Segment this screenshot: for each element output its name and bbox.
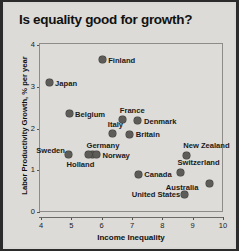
x-tick-label: 10 <box>216 222 230 230</box>
chart-inner-panel: Is equality good for growth? Labor Produ… <box>5 4 234 247</box>
data-point <box>66 110 73 117</box>
data-point-label: Sweden <box>36 147 65 155</box>
data-point <box>93 151 100 158</box>
data-point-label: Japan <box>55 80 77 88</box>
data-point <box>181 191 188 198</box>
x-axis-label: Income Inequality <box>39 233 223 242</box>
data-point-label: Belgium <box>75 111 105 119</box>
y-tick-label: 2 <box>23 125 35 133</box>
x-tick-label: 9 <box>186 222 200 230</box>
data-point-label: Germany <box>86 142 119 150</box>
y-tick-mark <box>37 212 40 213</box>
y-tick-label: 1 <box>23 166 35 174</box>
data-point-label: New Zealand <box>183 142 229 150</box>
data-point <box>65 151 72 158</box>
x-tick-mark <box>223 217 224 220</box>
data-point <box>109 130 116 137</box>
data-point <box>46 79 53 86</box>
x-tick-label: 8 <box>155 222 169 230</box>
y-tick-label: 4 <box>23 41 35 49</box>
chart-figure: Is equality good for growth? Labor Produ… <box>0 0 239 251</box>
data-point-label: Finland <box>108 57 135 65</box>
data-point-label: Denmark <box>144 118 177 126</box>
data-point-label: Switzerland <box>177 159 219 167</box>
plot-area: FinlandJapanBelgiumFranceDenmarkItalyBri… <box>39 43 223 212</box>
x-tick-label: 6 <box>95 222 109 230</box>
y-tick-label: 0 <box>23 208 35 216</box>
data-point <box>134 117 141 124</box>
x-tick-label: 4 <box>34 222 48 230</box>
data-point-label: Britain <box>136 131 160 139</box>
data-point <box>135 171 142 178</box>
x-tick-label: 5 <box>64 222 78 230</box>
data-point-label: Canada <box>144 171 171 179</box>
data-point <box>206 180 213 187</box>
chart-title: Is equality good for growth? <box>19 12 231 28</box>
x-tick-label: 7 <box>125 222 139 230</box>
data-point-label: Holland <box>67 161 95 169</box>
data-point-label: Italy <box>108 121 123 129</box>
y-tick-label: 3 <box>23 83 35 91</box>
data-point <box>177 169 184 176</box>
x-axis-line <box>39 217 223 218</box>
data-point <box>126 131 133 138</box>
data-point <box>99 56 106 63</box>
data-point-label: France <box>120 107 145 115</box>
data-point-label: United States <box>132 191 181 199</box>
data-point-label: Norway <box>102 152 129 160</box>
